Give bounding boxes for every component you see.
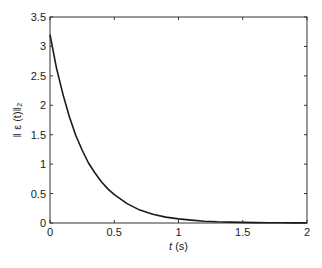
y-tick-label: 1 xyxy=(40,158,46,170)
x-tick-label: 1.5 xyxy=(235,226,250,238)
y-tick-label: 0.5 xyxy=(31,188,46,200)
x-tick-label: 0.5 xyxy=(107,226,122,238)
y-axis: 00.511.522.533.5 xyxy=(31,11,307,229)
line-chart: 00.511.52 00.511.522.533.5 t (s) ‖ ε (t)… xyxy=(0,0,322,268)
x-tick-label: 1 xyxy=(175,226,181,238)
y-tick-label: 2.5 xyxy=(31,70,46,82)
y-tick-label: 3.5 xyxy=(31,11,46,23)
x-tick-label: 2 xyxy=(304,226,310,238)
y-axis-label: ‖ ε (t)‖₂ xyxy=(11,103,23,138)
y-tick-label: 2 xyxy=(40,99,46,111)
y-tick-label: 1.5 xyxy=(31,129,46,141)
x-axis: 00.511.52 xyxy=(47,17,310,238)
y-tick-label: 0 xyxy=(40,217,46,229)
y-tick-label: 3 xyxy=(40,40,46,52)
axes-box xyxy=(50,17,307,223)
x-tick-label: 0 xyxy=(47,226,53,238)
x-axis-label: t (s) xyxy=(169,240,188,252)
data-line xyxy=(50,35,307,223)
plot-area xyxy=(50,17,307,223)
